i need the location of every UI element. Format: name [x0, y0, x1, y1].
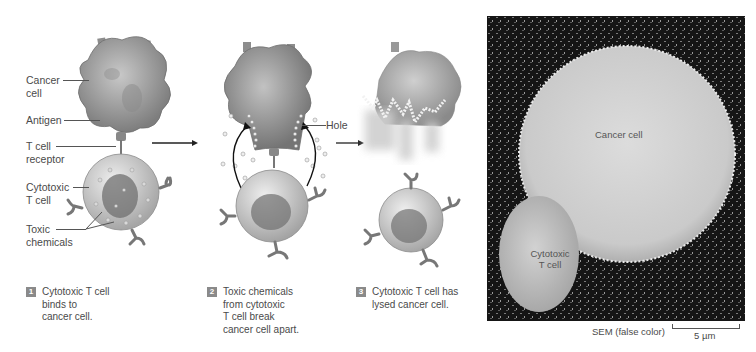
label-cytotoxic-t-cell: Cytotoxic T cell: [26, 181, 69, 207]
scale-bar-label: 5 µm: [694, 330, 715, 341]
arrow-right-icon: [150, 138, 200, 148]
panel-3-illustration: [355, 30, 475, 270]
label-antigen: Antigen: [26, 114, 62, 127]
label-cancer-cell: Cancer cell: [26, 74, 60, 100]
sem-micrograph: Cancer cell Cytotoxic T cell: [487, 16, 745, 321]
cancer-cell-icon: [224, 42, 311, 150]
lysed-cancer-cell-icon: [363, 42, 461, 160]
receptor-icon: [116, 132, 126, 141]
label-micrograph-t-cell: Cytotoxic T cell: [525, 248, 575, 270]
label-t-cell-receptor: T cell receptor: [26, 140, 65, 166]
label-hole: Hole: [326, 119, 348, 132]
leader-line: [63, 80, 89, 81]
sem-image: [487, 16, 745, 321]
leader-line: [73, 187, 89, 188]
step-number-badge: 3: [356, 287, 366, 297]
panel-2-illustration: [205, 30, 335, 270]
label-toxic-chemicals: Toxic chemicals: [26, 223, 73, 249]
leader-line: [302, 125, 326, 126]
leader-line: [56, 146, 116, 147]
t-cell-icon: [221, 170, 325, 258]
step-number-badge: 2: [207, 287, 217, 297]
label-micrograph-cancer-cell: Cancer cell: [595, 129, 643, 140]
leader-line: [64, 120, 100, 121]
leader-line: [56, 229, 86, 230]
micrograph-caption: SEM (false color): [592, 326, 665, 337]
scale-bar: [672, 324, 740, 329]
cancer-cell-icon: [78, 37, 170, 133]
step-number-badge: 1: [26, 287, 36, 297]
t-cell-icon: [365, 174, 459, 266]
